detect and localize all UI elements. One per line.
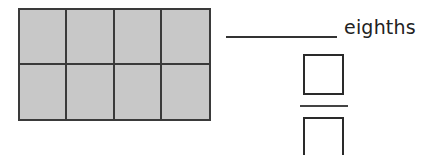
- model-part: [115, 65, 162, 120]
- model-part: [115, 10, 162, 65]
- numerator-box[interactable]: [303, 54, 344, 95]
- answer-blank[interactable]: [226, 36, 337, 38]
- model-part: [20, 65, 67, 120]
- denominator-box[interactable]: [303, 117, 344, 155]
- model-part: [162, 65, 209, 120]
- model-part: [67, 65, 114, 120]
- model-part: [20, 10, 67, 65]
- model-part: [162, 10, 209, 65]
- unit-label: eighths: [344, 16, 416, 38]
- model-part: [67, 10, 114, 65]
- fraction-bar: [300, 105, 348, 107]
- fraction-area-model: [18, 8, 211, 121]
